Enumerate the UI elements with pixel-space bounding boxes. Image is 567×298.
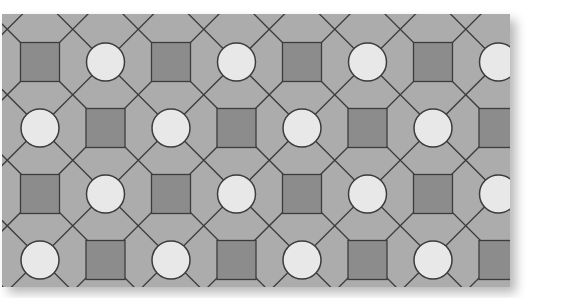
square-tile	[283, 175, 322, 214]
square-tile	[152, 43, 191, 82]
circle-tile	[480, 175, 511, 213]
circle-tile	[414, 109, 452, 147]
square-tile	[479, 109, 510, 148]
circle-tile	[87, 43, 125, 81]
circle-tile	[349, 43, 387, 81]
square-tile	[414, 175, 453, 214]
square-tile	[152, 175, 191, 214]
square-tile	[479, 241, 510, 280]
square-tile	[217, 241, 256, 280]
circle-tile	[349, 175, 387, 213]
tile-pattern-figure	[2, 14, 510, 287]
tile-pattern-graphic	[2, 14, 510, 287]
square-tile	[21, 175, 60, 214]
square-tile	[348, 241, 387, 280]
square-tile	[283, 43, 322, 82]
circle-tile	[414, 241, 452, 279]
square-tile	[348, 109, 387, 148]
square-tile	[86, 241, 125, 280]
circle-tile	[218, 175, 256, 213]
square-tile	[21, 43, 60, 82]
circle-tile	[283, 241, 321, 279]
circle-tile	[21, 109, 59, 147]
circle-tile	[152, 109, 190, 147]
circle-tile	[218, 43, 256, 81]
square-tile	[217, 109, 256, 148]
circle-tile	[480, 43, 511, 81]
square-tile	[86, 109, 125, 148]
square-tile	[414, 43, 453, 82]
circle-tile	[87, 175, 125, 213]
circle-tile	[152, 241, 190, 279]
circle-tile	[21, 241, 59, 279]
circle-tile	[283, 109, 321, 147]
